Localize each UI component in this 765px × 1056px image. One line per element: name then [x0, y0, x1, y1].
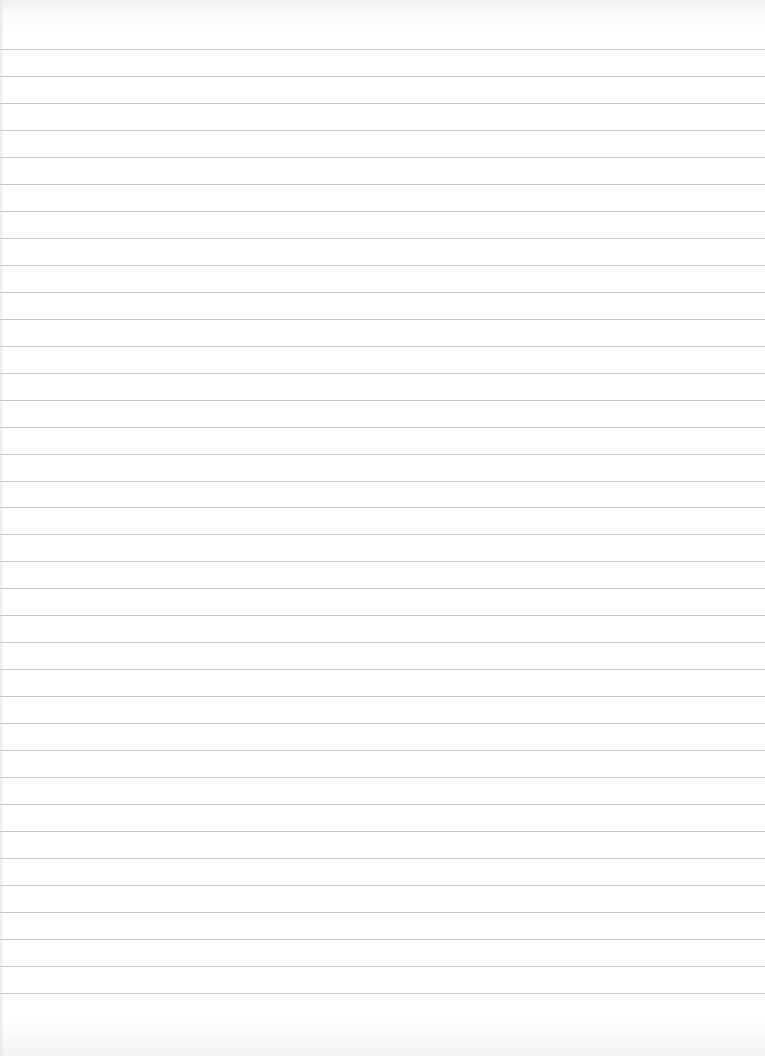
ruled-line	[0, 373, 765, 374]
ruled-line	[0, 696, 765, 697]
ruled-line	[0, 319, 765, 320]
ruled-line	[0, 561, 765, 562]
ruled-line	[0, 400, 765, 401]
ruled-line	[0, 454, 765, 455]
ruled-line	[0, 993, 765, 994]
ruled-line	[0, 157, 765, 158]
ruled-line	[0, 858, 765, 859]
ruled-line	[0, 723, 765, 724]
ruled-line	[0, 885, 765, 886]
ruled-line	[0, 831, 765, 832]
ruled-line	[0, 912, 765, 913]
ruled-line	[0, 265, 765, 266]
ruled-line	[0, 130, 765, 131]
lined-paper-sheet	[0, 0, 765, 1056]
ruled-line	[0, 49, 765, 50]
ruled-line	[0, 804, 765, 805]
ruled-line	[0, 588, 765, 589]
ruled-line	[0, 507, 765, 508]
ruled-line	[0, 427, 765, 428]
ruled-line	[0, 966, 765, 967]
ruled-line	[0, 292, 765, 293]
ruled-line	[0, 534, 765, 535]
ruled-line	[0, 184, 765, 185]
ruled-line	[0, 750, 765, 751]
ruled-line	[0, 669, 765, 670]
ruled-line	[0, 642, 765, 643]
ruled-line	[0, 211, 765, 212]
ruled-line	[0, 615, 765, 616]
ruled-line	[0, 939, 765, 940]
ruled-line	[0, 346, 765, 347]
ruled-line	[0, 103, 765, 104]
ruled-line	[0, 238, 765, 239]
paper-edge-shadow	[0, 0, 4, 1056]
ruled-line	[0, 777, 765, 778]
ruled-line	[0, 76, 765, 77]
ruled-line	[0, 481, 765, 482]
